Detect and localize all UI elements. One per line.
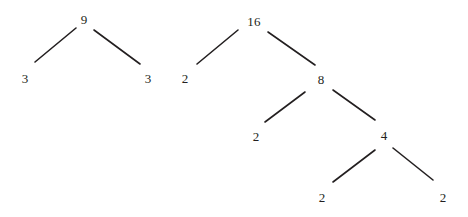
tree-node-label: 2	[319, 191, 326, 204]
tree-edges-layer	[0, 0, 468, 217]
tree-node-label: 9	[81, 13, 88, 26]
tree-edge	[268, 32, 315, 65]
tree-edges-group	[35, 28, 433, 182]
tree-edge	[333, 150, 375, 182]
tree-node-label: 2	[253, 130, 260, 143]
tree-node-label: 3	[22, 72, 29, 85]
tree-node-label: 8	[318, 73, 325, 86]
tree-node-label: 3	[145, 72, 152, 85]
tree-edge	[94, 30, 140, 64]
tree-edge	[333, 90, 375, 120]
factor-tree-figure: 93316282422	[0, 0, 468, 217]
tree-node-label: 16	[247, 15, 260, 28]
tree-edge	[265, 92, 305, 122]
tree-edge	[35, 28, 76, 62]
tree-node-label: 2	[182, 72, 189, 85]
tree-edge	[197, 30, 238, 64]
tree-node-label: 4	[381, 129, 388, 142]
tree-edge	[393, 148, 433, 180]
tree-node-label: 2	[440, 191, 447, 204]
